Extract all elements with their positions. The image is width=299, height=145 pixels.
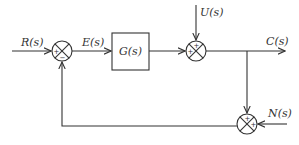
summing-junction-1: + − — [52, 41, 72, 62]
sign-plus: + — [188, 48, 194, 56]
label-r: R(s) — [20, 36, 44, 49]
summing-junction-3: + + — [237, 114, 257, 134]
label-c: C(s) — [266, 35, 289, 48]
label-e: E(s) — [81, 36, 104, 49]
block-diagram: R(s) + − E(s) G(s) U(s) + + C(s) + + — [0, 0, 299, 145]
sign-plus: + — [194, 42, 200, 50]
sign-plus: + — [251, 121, 257, 129]
label-u: U(s) — [200, 6, 224, 19]
sign-minus: − — [60, 54, 66, 62]
label-g: G(s) — [119, 45, 142, 58]
summing-junction-2: + + — [186, 41, 206, 61]
block-g: G(s) — [112, 33, 149, 70]
label-n: N(s) — [267, 107, 292, 120]
feedback-arrow — [62, 62, 237, 126]
